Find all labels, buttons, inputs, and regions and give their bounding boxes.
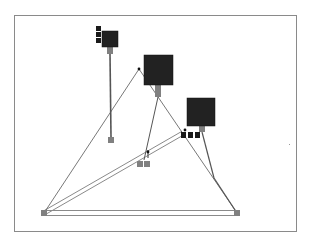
node-pad <box>199 126 205 132</box>
edge-line <box>110 54 111 137</box>
double-edges-layer <box>43 131 237 215</box>
terminal-pad[interactable] <box>137 161 143 167</box>
junction-port[interactable] <box>188 132 193 138</box>
junction-dot <box>138 68 141 71</box>
node-port[interactable] <box>96 26 101 31</box>
node-box[interactable] <box>144 55 173 85</box>
stray-mark <box>289 144 290 145</box>
node-port[interactable] <box>96 32 101 37</box>
node-box[interactable] <box>102 31 118 47</box>
junction-port[interactable] <box>181 132 186 138</box>
node-a[interactable] <box>96 26 118 54</box>
diagram-canvas <box>0 0 311 243</box>
term-a-end[interactable] <box>108 137 114 143</box>
edges-layer <box>44 54 237 213</box>
node-port[interactable] <box>96 38 101 43</box>
node-c[interactable] <box>187 98 215 132</box>
terminal-pad[interactable] <box>144 161 150 167</box>
junction-dot <box>184 129 187 132</box>
junction-port[interactable] <box>195 132 200 138</box>
term-left[interactable] <box>41 210 47 216</box>
node-pad <box>155 85 161 97</box>
junction-dot <box>147 151 150 154</box>
edge-line <box>214 178 237 213</box>
double-edge-line <box>43 131 182 211</box>
double-edge-line <box>45 135 184 215</box>
term-right[interactable] <box>234 210 240 216</box>
edge-line <box>44 69 139 213</box>
node-b[interactable] <box>144 55 173 97</box>
edge-line <box>202 132 214 178</box>
node-box[interactable] <box>187 98 215 126</box>
node-pad <box>107 47 113 54</box>
nodes-layer <box>96 26 215 132</box>
